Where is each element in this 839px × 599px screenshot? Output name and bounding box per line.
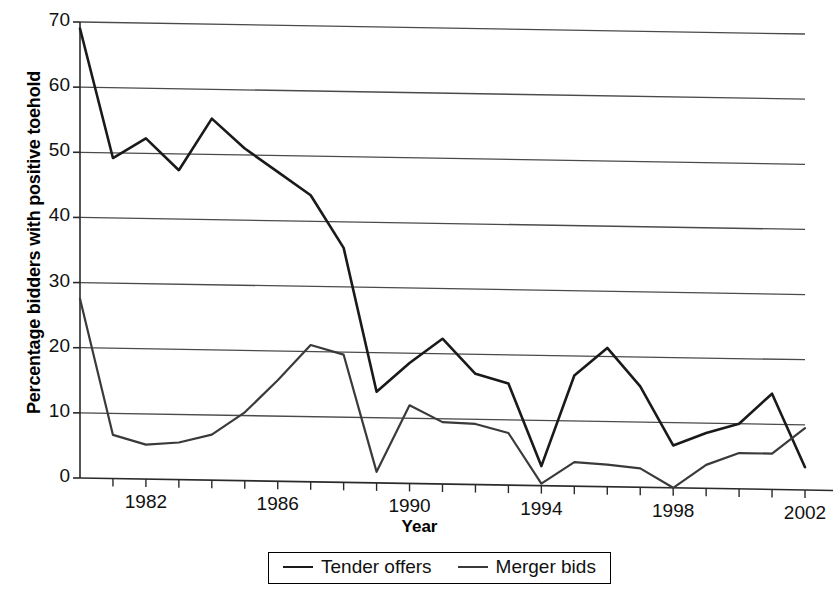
y-axis-ticks <box>73 22 80 478</box>
x-axis-tick-label: 1982 <box>111 491 181 513</box>
gridline <box>80 217 805 229</box>
x-axis-tick-label: 1986 <box>243 493 313 515</box>
x-axis-spine <box>80 478 833 490</box>
series-line-tender-offers <box>80 29 805 468</box>
y-axis-tick-label: 0 <box>22 465 70 487</box>
chart-container: Percentage bidders with positive toehold… <box>0 0 839 599</box>
gridline <box>80 87 805 99</box>
y-axis-tick-label: 40 <box>22 204 70 226</box>
gridline <box>80 283 805 295</box>
y-axis-tick-label: 70 <box>22 9 70 31</box>
legend-label-tender-offers: Tender offers <box>321 556 432 578</box>
series-line-merger-bids <box>80 299 805 488</box>
x-axis-title: Year <box>0 517 839 537</box>
x-axis-tick-label: 1990 <box>375 495 445 517</box>
legend-item-merger-bids[interactable]: Merger bids <box>458 556 596 578</box>
y-axis-tick-label: 50 <box>22 139 70 161</box>
legend-line-icon-tender-offers <box>283 566 313 568</box>
y-axis-tick-label: 10 <box>22 400 70 422</box>
chart-legend: Tender offers Merger bids <box>268 552 611 584</box>
x-axis-line <box>80 478 833 490</box>
gridline <box>80 22 805 34</box>
y-axis-tick-label: 20 <box>22 335 70 357</box>
legend-item-tender-offers[interactable]: Tender offers <box>283 556 432 578</box>
y-axis-tick-label: 60 <box>22 74 70 96</box>
gridlines-group <box>80 22 805 425</box>
legend-label-merger-bids: Merger bids <box>496 556 596 578</box>
y-axis-tick-label: 30 <box>22 270 70 292</box>
gridline <box>80 348 805 360</box>
legend-line-icon-merger-bids <box>458 566 488 568</box>
